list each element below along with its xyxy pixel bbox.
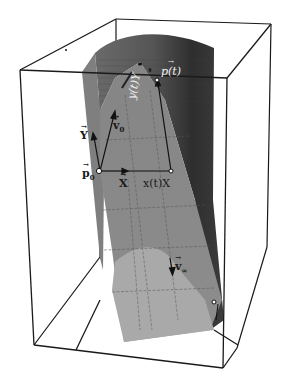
label-X-text: X — [119, 178, 128, 189]
point-p0 — [96, 168, 101, 173]
point-end — [212, 300, 216, 304]
label-x-of-t-X: x(t)X — [143, 178, 170, 189]
label-p-of-t-text: p(t) — [161, 66, 181, 77]
point-pt — [155, 78, 159, 82]
label-v0: v0 — [113, 120, 124, 133]
label-X: X — [119, 178, 128, 189]
label-v-infinity-subscript: ∞ — [181, 266, 187, 275]
label-p0-subscript: 0 — [90, 173, 95, 182]
surface-shadow-spot — [149, 68, 152, 72]
label-v0-subscript: 0 — [119, 125, 124, 134]
label-p-of-t: p(t) — [161, 66, 181, 77]
label-v-infinity-text: v — [175, 261, 181, 272]
label-p0: p0 — [82, 168, 95, 181]
diagram-svg — [0, 0, 284, 380]
label-v-infinity: v∞ — [175, 261, 187, 274]
label-Y: Y — [80, 130, 88, 141]
label-x-of-t-X-text: x(t)X — [143, 177, 170, 190]
diagram-canvas: p(t) y(t)Y v0 Y p0 X x(t)X v∞ — [0, 0, 284, 380]
point-xtX — [169, 169, 173, 173]
surface-shadow-spot — [138, 63, 142, 66]
label-Y-text: Y — [80, 130, 88, 141]
label-p0-text: p — [82, 168, 90, 179]
label-v0-text: v — [113, 120, 119, 131]
